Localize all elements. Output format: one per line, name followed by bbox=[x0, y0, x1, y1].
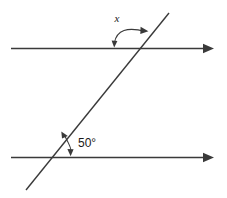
angle-50-label: 50° bbox=[78, 136, 96, 150]
angle-50-arc-arrowhead-lower bbox=[67, 149, 73, 156]
upper-line-arrowhead bbox=[203, 44, 214, 53]
geometry-figure: x 50° bbox=[0, 0, 227, 198]
diagram-canvas: x 50° bbox=[0, 0, 227, 198]
angle-50-arc-arrowhead-upper bbox=[61, 132, 68, 139]
angle-x-arc-arrowhead-right bbox=[140, 27, 148, 34]
transversal-line bbox=[26, 13, 169, 190]
angle-x-label: x bbox=[114, 12, 120, 24]
lower-line-arrowhead bbox=[203, 153, 214, 162]
angle-x-arc-arrowhead-left bbox=[112, 41, 118, 48]
